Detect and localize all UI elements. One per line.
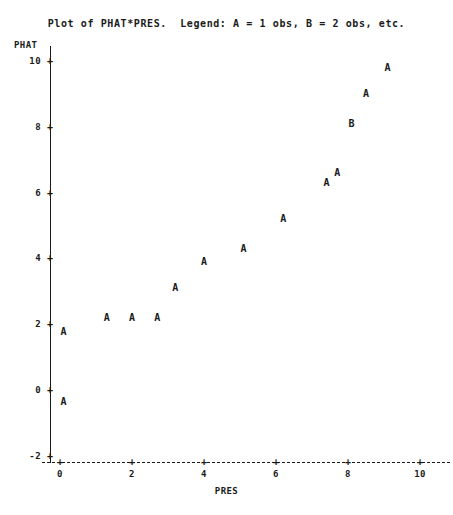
- y-axis-tick-label: 6: [13, 188, 41, 197]
- x-axis-tick-mark: +: [417, 457, 423, 467]
- x-axis-tick-mark: +: [273, 457, 279, 467]
- y-axis-tick-mark: +: [47, 122, 53, 132]
- data-point-marker: A: [201, 257, 207, 267]
- x-axis-tick-label: 10: [405, 470, 435, 479]
- data-point-marker: A: [323, 178, 329, 188]
- x-axis-tick-label: 8: [333, 470, 363, 479]
- y-axis-tick-mark: +: [47, 385, 53, 395]
- data-point-marker: B: [349, 119, 355, 129]
- data-point-marker: A: [280, 214, 286, 224]
- x-axis-tick-mark: +: [201, 457, 207, 467]
- y-axis-tick-mark: +: [47, 319, 53, 329]
- y-axis-tick-label: 2: [13, 320, 41, 329]
- data-point-marker: A: [334, 168, 340, 178]
- y-axis-tick-mark: +: [47, 451, 53, 461]
- x-axis-tick-label: 6: [261, 470, 291, 479]
- x-axis-line: [42, 462, 450, 463]
- data-point-marker: A: [129, 313, 135, 323]
- data-point-marker: A: [61, 397, 67, 407]
- x-axis-tick-mark: +: [129, 457, 135, 467]
- x-axis-tick-label: 2: [117, 470, 147, 479]
- y-axis-tick-label: -2: [13, 451, 41, 460]
- data-point-marker: A: [172, 283, 178, 293]
- x-axis-title: PRES: [0, 486, 453, 496]
- y-axis-tick-mark: +: [47, 56, 53, 66]
- plot-screenshot: Plot of PHAT*PRES. Legend: A = 1 obs, B …: [0, 0, 453, 515]
- y-axis-tick-label: 4: [13, 254, 41, 263]
- y-axis-tick-mark: +: [47, 188, 53, 198]
- y-axis-tick-label: 10: [13, 57, 41, 66]
- data-point-marker: A: [385, 63, 391, 73]
- data-point-marker: A: [363, 89, 369, 99]
- data-point-marker: A: [104, 313, 110, 323]
- data-point-marker: A: [241, 244, 247, 254]
- x-axis-tick-mark: +: [57, 457, 63, 467]
- data-point-marker: A: [154, 313, 160, 323]
- x-axis-tick-label: 0: [45, 470, 75, 479]
- data-point-marker: A: [61, 327, 67, 337]
- y-axis-tick-mark: +: [47, 253, 53, 263]
- y-axis-title: PHAT: [14, 40, 37, 50]
- y-axis-tick-label: 8: [13, 122, 41, 131]
- plot-area: PHAT PRES +-2+0+2+4+6+8+10 +0+2+4+6+8+10…: [0, 0, 453, 515]
- x-axis-tick-label: 4: [189, 470, 219, 479]
- y-axis-tick-label: 0: [13, 386, 41, 395]
- x-axis-tick-mark: +: [345, 457, 351, 467]
